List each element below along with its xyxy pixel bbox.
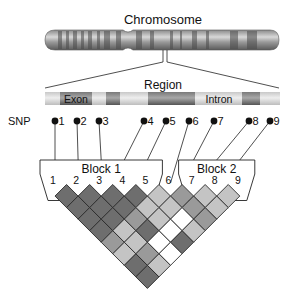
chromosome — [45, 30, 279, 50]
ld-heatmap — [55, 185, 240, 289]
snp-dot — [211, 118, 218, 125]
snp-label: 7 — [218, 115, 224, 127]
exon-label: Exon — [64, 93, 88, 105]
chromosome-title: Chromosome — [124, 12, 202, 27]
snp-connector — [124, 121, 144, 160]
snp-dot — [246, 118, 253, 125]
snp-dot — [74, 118, 81, 125]
snp-label: 5 — [170, 115, 176, 127]
snp-dot — [163, 118, 170, 125]
ld-index-label: 9 — [235, 174, 241, 186]
ld-index-label: 3 — [96, 174, 102, 186]
snp-dot — [267, 118, 274, 125]
ld-index-label: 2 — [73, 174, 79, 186]
snp-axis-label: SNP — [8, 115, 31, 127]
snp-connector — [77, 121, 78, 160]
region-bar: Exon Intron — [45, 92, 280, 105]
ld-index-label: 6 — [166, 174, 172, 186]
snp-label: 8 — [253, 115, 259, 127]
snp-label: 3 — [103, 115, 109, 127]
snp-connector — [99, 121, 101, 160]
ld-block-diagram: Chromosome Region — [0, 0, 289, 303]
snp-label: 4 — [148, 115, 154, 127]
snp-label: 2 — [81, 115, 87, 127]
ld-index-label: 4 — [119, 174, 125, 186]
ld-index-label: 8 — [212, 174, 218, 186]
snp-dot — [96, 118, 103, 125]
snp-label: 9 — [274, 115, 280, 127]
ld-index-label: 1 — [50, 174, 56, 186]
region-segment — [242, 92, 260, 105]
ld-index-label: 7 — [189, 174, 195, 186]
ld-index-label: 5 — [142, 174, 148, 186]
snp-dot — [52, 118, 59, 125]
snp-label: 6 — [193, 115, 199, 127]
snp-dot — [186, 118, 193, 125]
snp-label: 1 — [59, 115, 65, 127]
snp-dot — [141, 118, 148, 125]
ld-heatmap-labels: 123456789 — [50, 174, 241, 186]
region-segment — [148, 92, 195, 105]
intron-label: Intron — [206, 93, 233, 105]
region-label: Region — [144, 78, 182, 92]
region-segment — [106, 92, 120, 105]
